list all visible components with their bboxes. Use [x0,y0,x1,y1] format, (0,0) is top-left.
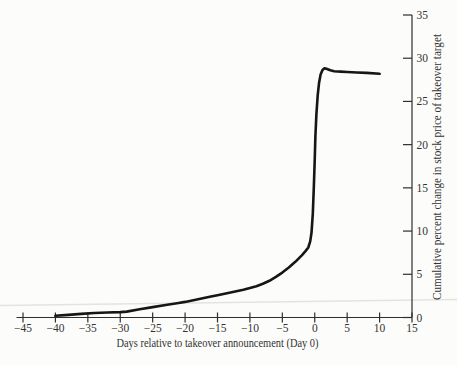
x-tick-label: 5 [344,322,350,334]
chart-canvas: −45−40−35−30−25−20−15−10−505101505101520… [0,0,457,365]
y-tick-label: 10 [417,225,429,237]
y-tick-label: 0 [417,312,423,324]
x-tick-label: −45 [14,322,32,334]
x-tick-label: 0 [312,322,318,334]
y-tick-label: 35 [417,9,429,21]
x-axis-title: Days relative to takeover announcement (… [117,336,319,350]
x-tick-label: −10 [241,322,259,334]
y-tick-label: 15 [417,182,429,194]
scan-artifact-line [0,300,457,306]
x-tick-label: −35 [79,322,97,334]
y-tick-label: 20 [417,139,429,151]
x-tick-label: −40 [46,322,64,334]
y-axis-title: Cumulative percent change in stock price… [431,33,444,300]
x-tick-label: −25 [144,322,162,334]
x-tick-label: −5 [276,322,288,334]
y-tick-label: 5 [417,268,423,280]
y-tick-label: 30 [417,52,429,64]
takeover-event-study-figure: −45−40−35−30−25−20−15−10−505101505101520… [0,0,457,365]
x-tick-label: −20 [176,322,194,334]
x-tick-label: 10 [374,322,386,334]
x-tick-label: −30 [111,322,129,334]
x-tick-label: −15 [209,322,227,334]
cumulative-return-curve [55,68,379,316]
y-tick-label: 25 [417,95,429,107]
